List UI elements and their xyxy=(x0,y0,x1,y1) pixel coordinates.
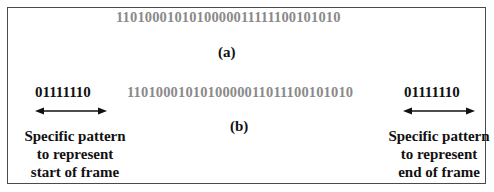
caption-a: (a) xyxy=(218,44,236,61)
end-frame-note: Specific pattern to represent end of fra… xyxy=(380,127,494,181)
start-frame-note: Specific pattern to represent start of f… xyxy=(20,127,130,181)
note-line: end of frame xyxy=(380,163,494,181)
double-arrow-icon xyxy=(403,106,475,116)
double-arrow-icon xyxy=(35,106,107,116)
note-line: start of frame xyxy=(20,163,130,181)
start-flag: 01111110 xyxy=(35,84,91,101)
bitstream-b: 1101000101010000011011100101010 xyxy=(127,84,353,101)
caption-b: (b) xyxy=(230,118,248,135)
end-flag: 01111110 xyxy=(404,84,460,101)
note-line: Specific pattern xyxy=(20,127,130,145)
note-line: Specific pattern xyxy=(380,127,494,145)
note-line: to represent xyxy=(20,145,130,163)
note-line: to represent xyxy=(380,145,494,163)
bitstream-a: 1101000101010000011111100101010 xyxy=(116,9,341,26)
